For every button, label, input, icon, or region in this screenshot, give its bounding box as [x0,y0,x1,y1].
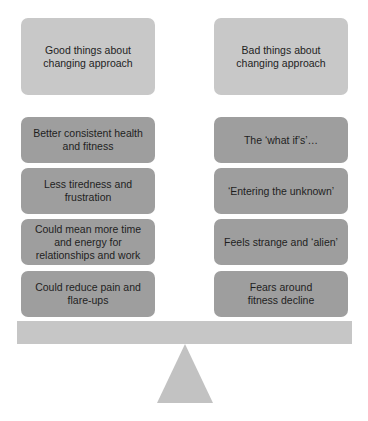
good-item-4-text: Could reduce pain and flare-ups [27,281,149,307]
good-things-header-text: Good things about changing approach [27,44,149,70]
good-item-2: Less tiredness and frustration [21,168,155,214]
good-item-2-text: Less tiredness and frustration [27,178,149,204]
bad-item-2-text: ‘Entering the unknown’ [228,185,334,198]
bad-item-4-text: Fears around fitness decline [220,281,342,307]
bad-item-1: The ‘what if’s’… [214,117,348,163]
bad-item-2: ‘Entering the unknown’ [214,168,348,214]
good-things-header: Good things about changing approach [21,18,155,95]
bad-item-3: Feels strange and ‘alien’ [214,219,348,265]
good-item-4: Could reduce pain and flare-ups [21,271,155,317]
scale-fulcrum-triangle [157,344,213,403]
bad-things-header: Bad things about changing approach [214,18,348,95]
bad-item-3-text: Feels strange and ‘alien’ [224,236,338,249]
good-item-1: Better consistent health and fitness [21,117,155,163]
bad-things-header-text: Bad things about changing approach [220,44,342,70]
good-item-3: Could mean more time and energy for rela… [21,219,155,265]
good-item-3-text: Could mean more time and energy for rela… [27,223,149,262]
good-item-1-text: Better consistent health and fitness [27,127,149,153]
scale-beam [17,321,352,344]
bad-item-4: Fears around fitness decline [214,271,348,317]
bad-item-1-text: The ‘what if’s’… [244,134,318,147]
